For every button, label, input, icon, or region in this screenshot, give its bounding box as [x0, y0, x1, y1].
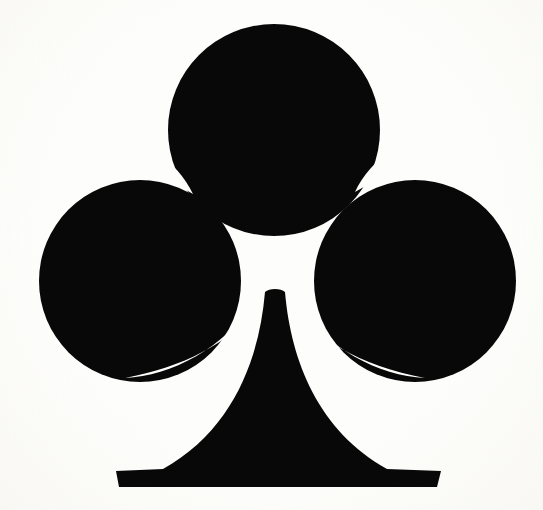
club-suit-icon	[0, 0, 543, 510]
club-left-lobe	[39, 180, 241, 382]
club-right-lobe	[314, 180, 516, 382]
image-canvas	[0, 0, 543, 510]
